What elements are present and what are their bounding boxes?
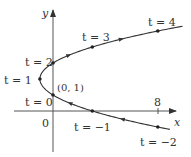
x-axis-label: x: [174, 116, 181, 129]
parametric-plot: y x 0 8 (0, 1) t = 4 t = 3 t = 2 t = 1 t…: [0, 0, 191, 157]
curve-points: [38, 29, 160, 129]
label-t-minus-1: t = −1: [74, 121, 111, 134]
origin-label: 0: [42, 117, 49, 130]
point-label-0-1: (0, 1): [57, 82, 84, 93]
point-t--2: [156, 125, 160, 129]
direction-arrow-icon: [66, 52, 72, 58]
direction-arrow-icon: [67, 100, 73, 106]
label-t-3: t = 3: [82, 31, 110, 44]
point-t-1: [38, 77, 42, 81]
y-axis-label: y: [41, 7, 49, 20]
point-t-3: [91, 45, 95, 49]
label-t-4: t = 4: [148, 16, 176, 29]
label-t-0: t = 0: [25, 96, 53, 109]
point-t--1: [91, 109, 95, 113]
label-t-1: t = 1: [4, 74, 32, 87]
direction-arrows: [66, 37, 125, 122]
point-t-4: [156, 29, 160, 33]
parametric-curve: [40, 26, 183, 129]
label-t-2: t = 2: [25, 56, 53, 69]
label-t-minus-2: t = −2: [140, 136, 177, 149]
x-tick-label-8: 8: [154, 96, 161, 109]
